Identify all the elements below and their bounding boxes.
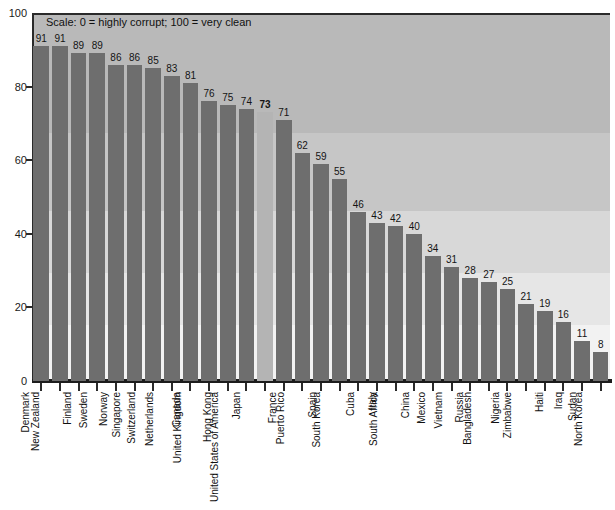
bar xyxy=(164,76,180,381)
bar-group: 85 xyxy=(144,13,163,381)
bar-value-label: 42 xyxy=(386,214,405,224)
x-tick-mark xyxy=(208,383,210,391)
x-axis-label: New Zealand xyxy=(30,392,41,451)
bar-value-label: 71 xyxy=(274,108,293,118)
bar xyxy=(295,153,311,381)
x-label-slot: North Korea xyxy=(591,392,610,510)
bar xyxy=(89,53,105,381)
x-tick-mark xyxy=(96,383,98,391)
bar-group: 91 xyxy=(32,13,51,381)
bar xyxy=(313,164,329,381)
x-axis-label: Vietnam xyxy=(433,392,444,429)
x-tick-mark xyxy=(469,383,471,391)
x-axis-label: Sweden xyxy=(79,392,90,428)
bar xyxy=(500,289,516,381)
x-axis-label: United Kingdom xyxy=(174,392,185,463)
bar-value-label: 86 xyxy=(125,53,144,63)
bar-group: 89 xyxy=(69,13,88,381)
bar-group: 71 xyxy=(274,13,293,381)
x-axis-label: North Korea xyxy=(574,392,585,446)
x-tick-mark xyxy=(134,383,136,391)
bar xyxy=(332,179,348,381)
x-tick-mark xyxy=(59,383,61,391)
bar-value-label: 81 xyxy=(181,71,200,81)
x-axis-label: Puerto Rico xyxy=(276,392,287,444)
bar-value-label: 43 xyxy=(368,211,387,221)
bar-value-label: 28 xyxy=(461,266,480,276)
x-tick-mark xyxy=(581,383,583,391)
bar-group: 76 xyxy=(200,13,219,381)
y-tick-mark-20 xyxy=(26,306,33,308)
bar-group: 86 xyxy=(107,13,126,381)
bar-value-label: 91 xyxy=(51,34,70,44)
bar xyxy=(425,256,441,381)
x-tick-mark xyxy=(376,383,378,391)
x-axis-label: South Korea xyxy=(312,392,323,448)
bar-group: 16 xyxy=(554,13,573,381)
bar-value-label: 31 xyxy=(442,255,461,265)
x-tick-mark xyxy=(506,383,508,391)
x-tick-mark xyxy=(227,383,229,391)
x-axis-label: Bangladesh xyxy=(462,392,473,445)
bar-group: 91 xyxy=(51,13,70,381)
x-axis-label: Singapore xyxy=(112,392,123,438)
bar-group: 74 xyxy=(237,13,256,381)
x-axis-label: South Africa xyxy=(369,392,380,446)
bar-value-label: 73 xyxy=(256,100,275,110)
bar-group: 28 xyxy=(461,13,480,381)
bar xyxy=(388,226,404,381)
x-tick-mark xyxy=(301,383,303,391)
x-tick-mark xyxy=(525,383,527,391)
x-label-slot: Japan xyxy=(237,392,256,510)
y-tick-label-100: 100 xyxy=(9,8,27,19)
bar-group: 11 xyxy=(573,13,592,381)
x-tick-mark xyxy=(283,383,285,391)
bar xyxy=(406,234,422,381)
bar-group: 83 xyxy=(163,13,182,381)
bar-group: 40 xyxy=(405,13,424,381)
x-axis-label: Haiti xyxy=(535,392,546,412)
bar-value-label: 89 xyxy=(88,41,107,51)
bar-value-label: 85 xyxy=(144,56,163,66)
bar xyxy=(257,112,273,381)
x-tick-mark xyxy=(264,383,266,391)
bar-group: 75 xyxy=(218,13,237,381)
bar xyxy=(33,46,49,381)
bar-group: 89 xyxy=(88,13,107,381)
bar-value-label: 27 xyxy=(479,270,498,280)
x-tick-mark xyxy=(357,383,359,391)
bar-value-label: 83 xyxy=(163,64,182,74)
bar-value-label: 19 xyxy=(535,299,554,309)
bar-group: 27 xyxy=(479,13,498,381)
bar-value-label: 46 xyxy=(349,200,368,210)
bar-group: 81 xyxy=(181,13,200,381)
bar-value-label: 40 xyxy=(405,222,424,232)
bar-value-label: 89 xyxy=(69,41,88,51)
bar-group: 86 xyxy=(125,13,144,381)
x-tick-mark xyxy=(320,383,322,391)
bar-value-label: 8 xyxy=(591,340,610,350)
x-axis-label: Japan xyxy=(233,392,244,419)
bar xyxy=(350,212,366,381)
bar-value-label: 62 xyxy=(293,141,312,151)
x-label-slot: Haiti xyxy=(535,392,554,510)
bar-group: 21 xyxy=(517,13,536,381)
x-axis-label: Zimbabwe xyxy=(503,392,514,438)
bar-value-label: 55 xyxy=(330,167,349,177)
bar-group: 46 xyxy=(349,13,368,381)
bar-value-label: 74 xyxy=(237,97,256,107)
x-label-slot: Canada xyxy=(181,392,200,510)
bar-group: 43 xyxy=(368,13,387,381)
bar-group: 62 xyxy=(293,13,312,381)
x-label-slot: Zimbabwe xyxy=(517,392,536,510)
bar-group: 19 xyxy=(535,13,554,381)
bar xyxy=(220,105,236,381)
bar xyxy=(108,65,124,381)
bar-group: 73 xyxy=(256,13,275,381)
bar xyxy=(593,352,609,381)
bar-value-label: 21 xyxy=(517,292,536,302)
x-tick-mark xyxy=(600,383,602,391)
x-tick-mark xyxy=(413,383,415,391)
x-axis-label: Netherlands xyxy=(145,392,156,446)
bar xyxy=(71,53,87,381)
